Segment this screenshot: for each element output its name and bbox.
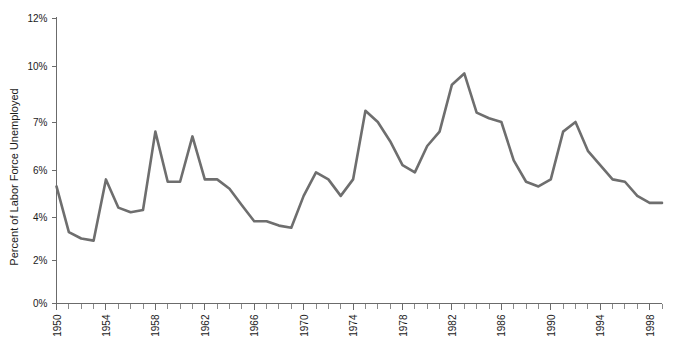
x-tick-label: 1978 (398, 314, 409, 337)
x-axis-ticks: 1950195419581962196619701974197819821986… (52, 304, 663, 337)
y-tick-label: 12% (27, 13, 47, 24)
x-tick-label: 1986 (496, 314, 507, 337)
y-axis-ticks: 0%2%4%6%7%10%12% (27, 13, 56, 310)
y-tick-label: 7% (33, 117, 48, 128)
x-tick-label: 1950 (52, 314, 63, 337)
y-axis-title: Percent of Labor Force Unemployed (8, 88, 20, 265)
x-tick-label: 1998 (645, 314, 656, 337)
x-tick-label: 1966 (249, 314, 260, 337)
y-tick-label: 6% (33, 165, 48, 176)
x-tick-label: 1970 (299, 314, 310, 337)
x-tick-label: 1974 (348, 314, 359, 337)
x-tick-label: 1962 (200, 314, 211, 337)
x-tick-label: 1982 (447, 314, 458, 337)
x-tick-label: 1990 (546, 314, 557, 337)
y-tick-label: 4% (33, 212, 48, 223)
y-tick-label: 10% (27, 61, 47, 72)
x-tick-label: 1958 (150, 314, 161, 337)
x-tick-label: 1954 (101, 314, 112, 337)
series-line-unemployment (57, 73, 663, 240)
unemployment-line-chart: Percent of Labor Force Unemployed 0%2%4%… (0, 0, 676, 347)
y-tick-label: 2% (33, 255, 48, 266)
y-tick-label: 0% (33, 298, 48, 309)
chart-page: Percent of Labor Force Unemployed 0%2%4%… (0, 0, 676, 347)
y-axis-title-group: Percent of Labor Force Unemployed (8, 88, 20, 265)
x-tick-label: 1994 (595, 314, 606, 337)
